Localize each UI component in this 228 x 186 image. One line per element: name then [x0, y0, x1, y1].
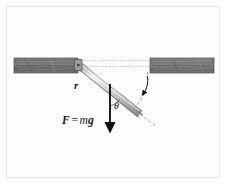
label-force-equation: F=mg	[62, 115, 94, 127]
rod-extension-dashed-line	[140, 114, 157, 127]
pivot-pin	[77, 64, 80, 67]
rotation-direction-arrow	[144, 76, 148, 93]
horizontal-reference-line	[78, 61, 150, 67]
force-symbol-g: g	[88, 114, 94, 126]
force-equals-sign: =	[70, 114, 80, 126]
pivot-hinge	[75, 60, 83, 71]
physics-diagram-figure: r θ F=mg	[0, 0, 228, 186]
label-angle-theta: θ	[114, 101, 119, 111]
force-symbol-F: F	[62, 114, 70, 126]
wooden-beam-right	[150, 58, 214, 73]
rod-edge-bottom	[78, 69, 139, 118]
rotation-direction-arc	[133, 72, 148, 109]
force-symbol-m: m	[80, 114, 89, 126]
wooden-beam-left	[14, 58, 78, 73]
label-radius-r: r	[74, 80, 78, 91]
diagram-canvas	[0, 0, 228, 186]
